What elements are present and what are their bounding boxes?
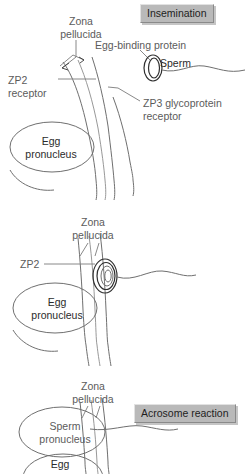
label-zona-pellucida-2: Zona pellucida (62, 380, 124, 405)
label-sperm: Sperm (160, 57, 191, 70)
label-sperm-pronucleus-line2: pronucleus (39, 433, 90, 445)
label-zona-pellucida-0: Zona pellucida (50, 15, 112, 40)
label-sperm-pronucleus-line1: Sperm (50, 420, 81, 432)
label-zona-pellucida-0-line2: pellucida (60, 28, 101, 40)
label-egg-pronucleus-0-line2: pronucleus (25, 148, 76, 160)
label-zp3-line1: ZP3 glycoprotein (143, 97, 222, 109)
label-zp2: ZP2 (20, 258, 39, 271)
label-zp3-glycoprotein-receptor: ZP3 glycoprotein receptor (143, 97, 247, 122)
label-zp2-receptor-line1: ZP2 (8, 74, 27, 86)
label-egg-binding-protein: Egg-binding protein (95, 39, 186, 52)
fertilization-figure: .s{fill:none;stroke:#6f6f6f;stroke-width… (0, 0, 249, 474)
label-zona-pellucida-1: Zona pellucida (62, 216, 124, 241)
label-zona-pellucida-2-line2: pellucida (72, 393, 113, 405)
label-zona-pellucida-1-line2: pellucida (72, 229, 113, 241)
stage-label-insemination: Insemination (140, 4, 214, 23)
label-egg-pronucleus-1: Egg pronucleus (14, 296, 100, 321)
label-egg-pronucleus-1-line1: Egg (48, 296, 67, 308)
label-egg-pronucleus-0-line1: Egg (42, 135, 61, 147)
label-zp3-line2: receptor (143, 110, 182, 122)
label-egg-pronucleus-0: Egg pronucleus (8, 135, 94, 160)
label-zp2-receptor: ZP2 receptor (8, 74, 68, 99)
label-egg-pronucleus-1-line2: pronucleus (31, 309, 82, 321)
panel-fertilization: Fertilization (0, 345, 249, 474)
label-zona-pellucida-1-line1: Zona (81, 216, 105, 228)
label-sperm-pronucleus: Sperm pronucleus (22, 420, 108, 445)
label-egg-2: Egg (30, 458, 90, 471)
label-zona-pellucida-0-line1: Zona (69, 15, 93, 27)
label-zona-pellucida-2-line1: Zona (81, 380, 105, 392)
label-zp2-receptor-line2: receptor (8, 87, 47, 99)
